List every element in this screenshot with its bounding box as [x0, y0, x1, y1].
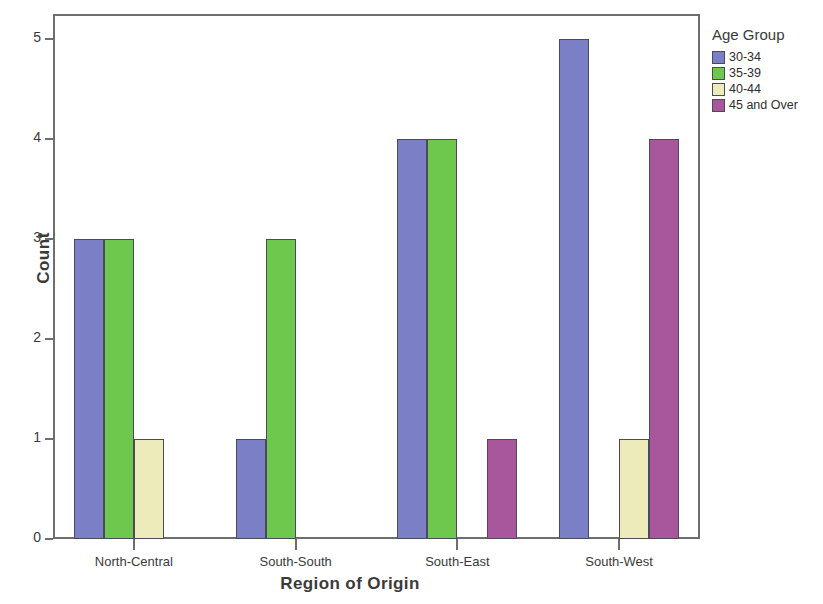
y-tick-label: 4 — [33, 129, 41, 145]
y-tick-mark — [45, 438, 53, 440]
y-tick-mark — [45, 338, 53, 340]
y-tick-1: 1 — [0, 439, 53, 440]
bar-south-east-30-34 — [397, 139, 427, 539]
bar-north-central-35-39 — [104, 239, 134, 539]
bar-chart: Count 012345 North-CentralSouth-SouthSou… — [0, 0, 823, 604]
y-tick-5: 5 — [0, 39, 53, 40]
x-tick-mark — [295, 539, 297, 550]
x-tick-label: North-Central — [54, 554, 214, 569]
legend-label: 35-39 — [729, 66, 761, 80]
y-tick-0: 0 — [0, 539, 53, 540]
x-tick-label: South-West — [539, 554, 699, 569]
bar-south-east-35-39 — [427, 139, 457, 539]
y-tick-4: 4 — [0, 139, 53, 140]
legend-swatch-icon — [712, 99, 725, 112]
legend-item-40-44: 40-44 — [712, 82, 820, 96]
bar-south-south-30-34 — [236, 439, 266, 539]
legend-swatch-icon — [712, 83, 725, 96]
bar-south-south-35-39 — [266, 239, 296, 539]
y-tick-label: 5 — [33, 29, 41, 45]
legend-item-30-34: 30-34 — [712, 50, 820, 64]
bar-south-west-40-44 — [619, 439, 649, 539]
x-tick-mark — [456, 539, 458, 550]
legend-entries: 30-3435-3940-4445 and Over — [712, 50, 820, 112]
y-tick-mark — [45, 238, 53, 240]
legend-swatch-icon — [712, 67, 725, 80]
y-tick-label: 0 — [33, 529, 41, 545]
bar-north-central-40-44 — [134, 439, 164, 539]
x-tick-label: South-South — [216, 554, 376, 569]
y-tick-label: 3 — [33, 229, 41, 245]
legend-item-35-39: 35-39 — [712, 66, 820, 80]
y-tick-mark — [45, 38, 53, 40]
legend-swatch-icon — [712, 51, 725, 64]
y-tick-label: 2 — [33, 329, 41, 345]
legend-label: 40-44 — [729, 82, 761, 96]
x-tick-label: South-East — [377, 554, 537, 569]
legend-label: 30-34 — [729, 50, 761, 64]
x-axis-title: Region of Origin — [0, 574, 700, 594]
bar-south-west-30-34 — [559, 39, 589, 539]
legend-label: 45 and Over — [729, 98, 798, 112]
legend: Age Group 30-3435-3940-4445 and Over — [712, 26, 820, 114]
x-tick-mark — [618, 539, 620, 550]
y-axis-title: Count — [34, 198, 54, 318]
bar-south-west-45-and-over — [649, 139, 679, 539]
legend-title: Age Group — [712, 26, 820, 43]
x-tick-mark — [133, 539, 135, 550]
bar-south-east-45-and-over — [487, 439, 517, 539]
y-tick-2: 2 — [0, 339, 53, 340]
legend-item-45-and-over: 45 and Over — [712, 98, 820, 112]
y-tick-label: 1 — [33, 429, 41, 445]
bar-north-central-30-34 — [74, 239, 104, 539]
y-tick-mark — [45, 538, 53, 540]
y-tick-3: 3 — [0, 239, 53, 240]
y-tick-mark — [45, 138, 53, 140]
